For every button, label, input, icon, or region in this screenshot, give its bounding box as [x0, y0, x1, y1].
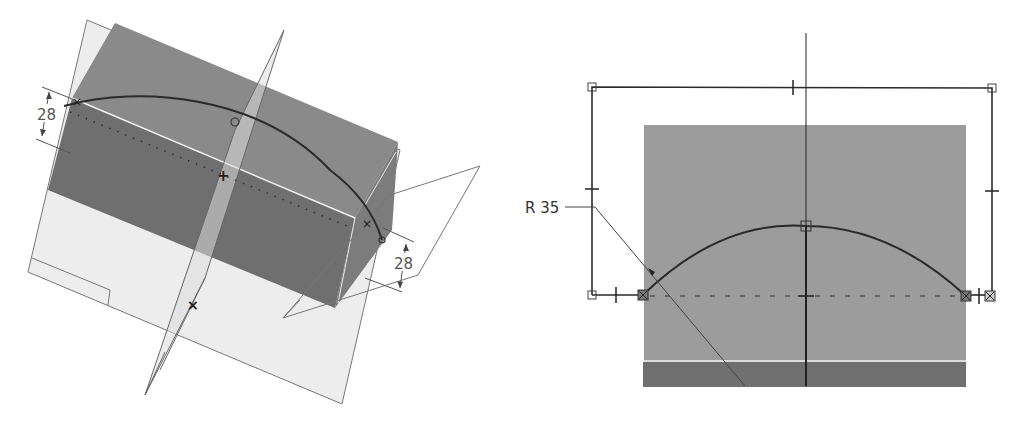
arc-endpoint-right[interactable] [961, 291, 971, 301]
dimension-value-left[interactable]: 28 [37, 106, 56, 124]
plane-origin-marker: × [187, 297, 199, 313]
endpoint-marker-left[interactable]: × [72, 95, 82, 109]
sketch-view: R 35 [525, 33, 999, 387]
endpoint-marker-right[interactable]: × [362, 217, 372, 231]
dimension-value-right[interactable]: 28 [394, 255, 413, 273]
rectangle-endpoint-right[interactable] [985, 291, 995, 301]
cad-canvas: × × + × 28 28 [0, 0, 1017, 423]
iso-view: × × + × 28 28 [28, 20, 480, 404]
radius-value[interactable]: R 35 [525, 199, 559, 217]
sketch-face-band [643, 362, 966, 387]
arc-endpoint-left[interactable] [638, 290, 648, 300]
center-marker: + [217, 167, 230, 185]
